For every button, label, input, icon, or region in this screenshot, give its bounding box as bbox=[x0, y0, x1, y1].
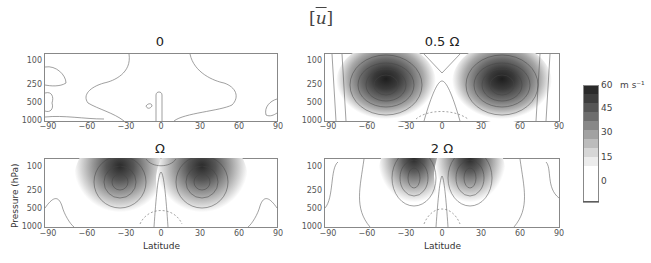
colorbar-tick-30: 30 bbox=[601, 127, 612, 137]
x-axis-label-right: Latitude bbox=[424, 241, 461, 251]
panel-2-plot bbox=[44, 158, 278, 228]
panel-3-plot bbox=[324, 158, 560, 228]
colorbar-tick-45: 45 bbox=[601, 103, 612, 113]
colorbar-tick-15: 15 bbox=[601, 152, 612, 162]
panel-title-1: 0.5 Ω bbox=[392, 34, 492, 49]
panel-title-3: 2 Ω bbox=[392, 141, 492, 156]
colorbar-unit: m s⁻¹ bbox=[620, 80, 645, 90]
figure-title: [u] bbox=[309, 8, 333, 28]
x-axis-label-left: Latitude bbox=[143, 241, 180, 251]
colorbar bbox=[583, 85, 599, 203]
panel-1-plot bbox=[324, 53, 560, 122]
panel-title-2: Ω bbox=[110, 141, 210, 156]
colorbar-tick-0: 0 bbox=[601, 176, 607, 186]
y-axis-label: Pressure (hPa) bbox=[10, 163, 20, 228]
colorbar-tick-60: 60 bbox=[601, 80, 612, 90]
panel-0-plot bbox=[44, 53, 278, 122]
panel-title-0: 0 bbox=[110, 34, 210, 49]
